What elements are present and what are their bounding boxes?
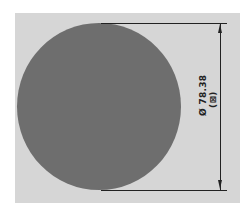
reference-label: (⊠) <box>208 91 218 108</box>
arrow-top-icon <box>218 24 222 33</box>
bottom-extension-line <box>101 190 227 191</box>
diameter-dimension-line[interactable] <box>220 23 221 190</box>
diameter-label: Ø 78.38 <box>198 75 208 116</box>
top-extension-line <box>101 23 227 24</box>
arrow-bottom-icon <box>218 180 222 189</box>
reference-dimension-text: (⊠) <box>208 91 218 108</box>
circle-shape[interactable] <box>17 23 181 190</box>
diameter-dimension-text[interactable]: Ø 78.38 <box>198 75 208 116</box>
